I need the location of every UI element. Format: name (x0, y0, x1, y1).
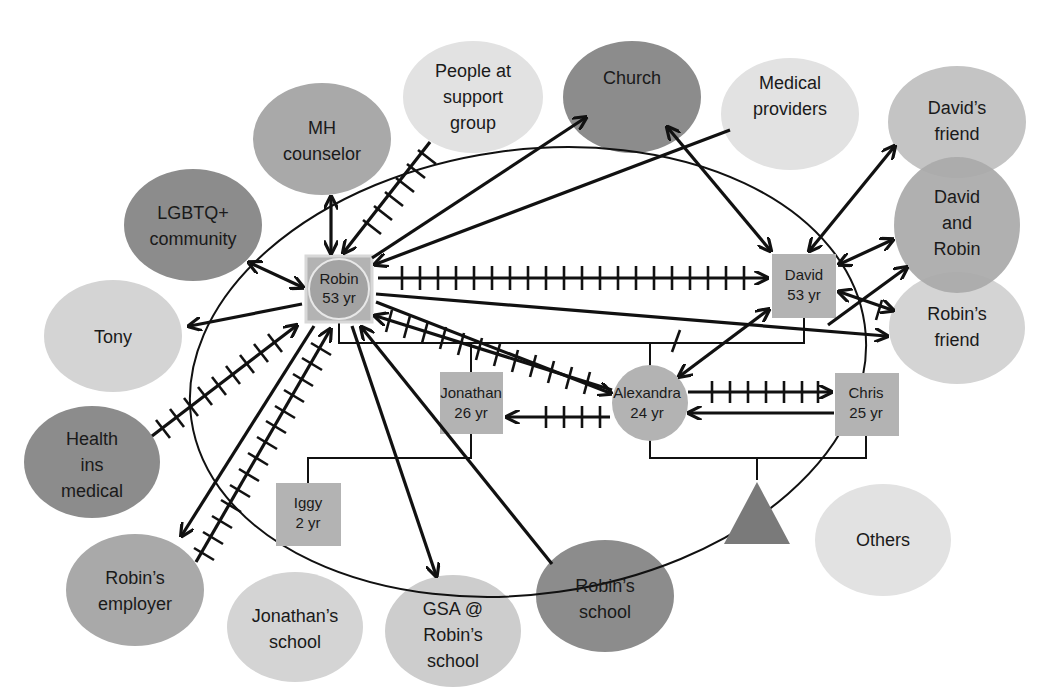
svg-text:Jonathan: Jonathan (440, 384, 502, 401)
svg-text:David: David (934, 187, 980, 207)
svg-text:friend: friend (934, 124, 979, 144)
svg-text:providers: providers (753, 99, 827, 119)
svg-text:Church: Church (603, 68, 661, 88)
ecomap-diagram: People at support group Church Medical p… (0, 0, 1038, 697)
svg-text:and: and (942, 213, 972, 233)
svg-text:Robin’s: Robin’s (105, 568, 165, 588)
svg-text:26 yr: 26 yr (454, 404, 487, 421)
household-boundary (160, 105, 895, 639)
genogram-lines (308, 318, 866, 483)
svg-text:community: community (149, 229, 236, 249)
svg-text:MH: MH (308, 118, 336, 138)
svg-text:LGBTQ+: LGBTQ+ (157, 203, 229, 223)
node-mh-counselor[interactable] (253, 83, 391, 195)
node-robins-school[interactable] (536, 540, 674, 652)
svg-text:53 yr: 53 yr (787, 286, 820, 303)
svg-text:Others: Others (856, 530, 910, 550)
node-lgbtq-community[interactable] (124, 169, 262, 281)
svg-text:group: group (450, 113, 496, 133)
svg-text:David’s: David’s (928, 98, 987, 118)
svg-text:school: school (269, 632, 321, 652)
svg-text:Robin’s: Robin’s (575, 576, 635, 596)
svg-text:counselor: counselor (283, 144, 361, 164)
svg-text:24 yr: 24 yr (630, 404, 663, 421)
svg-text:People at: People at (435, 61, 511, 81)
svg-text:53 yr: 53 yr (322, 289, 355, 306)
svg-text:David: David (785, 266, 823, 283)
svg-text:medical: medical (61, 481, 123, 501)
svg-text:friend: friend (934, 330, 979, 350)
svg-text:Health: Health (66, 429, 118, 449)
node-robins-employer[interactable] (66, 534, 204, 646)
svg-text:GSA @: GSA @ (423, 599, 483, 619)
svg-text:Robin’s: Robin’s (927, 304, 987, 324)
svg-text:school: school (427, 651, 479, 671)
svg-text:Robin’s: Robin’s (423, 625, 483, 645)
relationship-edges (152, 118, 906, 575)
node-alexandra[interactable] (612, 365, 688, 441)
node-pregnancy-triangle[interactable] (724, 482, 790, 544)
node-jonathans-school[interactable] (227, 572, 363, 682)
svg-text:25 yr: 25 yr (849, 404, 882, 421)
node-jonathan[interactable] (440, 372, 503, 434)
svg-text:school: school (579, 602, 631, 622)
svg-text:support: support (443, 87, 503, 107)
svg-text:employer: employer (98, 594, 172, 614)
node-church[interactable] (563, 41, 701, 153)
svg-text:2 yr: 2 yr (295, 514, 320, 531)
svg-text:Tony: Tony (94, 327, 132, 347)
svg-text:Iggy: Iggy (294, 494, 323, 511)
svg-text:Chris: Chris (848, 384, 883, 401)
svg-text:Robin: Robin (319, 270, 358, 287)
svg-text:Robin: Robin (933, 239, 980, 259)
svg-text:ins: ins (80, 455, 103, 475)
svg-text:Medical: Medical (759, 73, 821, 93)
svg-text:Alexandra: Alexandra (613, 384, 681, 401)
svg-text:Jonathan’s: Jonathan’s (252, 606, 339, 626)
